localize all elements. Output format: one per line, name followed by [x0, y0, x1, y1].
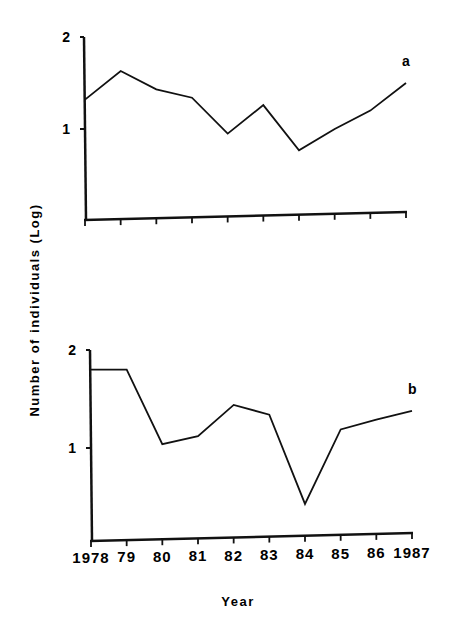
panel-a-series-line [85, 71, 406, 150]
panel-a-label: a [402, 53, 410, 69]
chart: 21a21b197879808182838485861987YearNumber… [0, 0, 462, 636]
panel-b-x-axis [90, 533, 413, 541]
x-axis-title: Year [221, 594, 254, 609]
x-tick-label: 84 [296, 545, 315, 562]
panel-b-ytick-label: 2 [68, 342, 76, 358]
y-axis-title: Number of individuals (Log) [27, 203, 42, 416]
x-tick-label: 81 [189, 547, 208, 564]
x-tick-label: 82 [224, 547, 243, 564]
panel-b-label: b [408, 381, 417, 397]
x-tick-label: 79 [117, 548, 136, 565]
x-tick-label: 85 [331, 545, 350, 562]
x-tick-label: 86 [367, 544, 386, 561]
x-tick-label: 1987 [393, 544, 430, 561]
panel-a-y-axis [84, 37, 86, 220]
panel-a-ytick-label: 1 [62, 121, 70, 137]
x-tick-label: 80 [153, 548, 172, 565]
panel-b-ytick-label: 1 [68, 440, 76, 456]
panel-b-series-line [91, 370, 412, 504]
x-tick-label: 83 [260, 546, 279, 563]
panel-b-y-axis [90, 350, 92, 541]
x-tick-label: 1978 [72, 549, 109, 566]
panel-a-x-axis [84, 212, 407, 220]
panel-a-ytick-label: 2 [62, 29, 70, 45]
